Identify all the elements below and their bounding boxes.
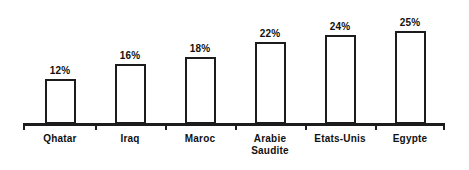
bar-chart: 12%16%18%22%24%25% QhatarIraqMarocArabie…: [0, 0, 469, 170]
category-label: Qhatar: [25, 133, 95, 145]
bar-group: 18%: [185, 41, 216, 124]
bar-group: 24%: [325, 19, 356, 124]
category-label-line: Saudite: [235, 145, 305, 157]
bar-value-label: 16%: [120, 50, 141, 61]
axis-tick: [23, 123, 25, 130]
category-label: Egypte: [375, 133, 445, 145]
category-label: ArabieSaudite: [235, 133, 305, 157]
bar: [255, 42, 286, 124]
category-label: Etats-Unis: [305, 133, 375, 145]
axis-tick: [443, 123, 445, 130]
bar-group: 16%: [115, 48, 146, 124]
bar: [185, 57, 216, 124]
category-label: Maroc: [165, 133, 235, 145]
axis-tick: [375, 123, 377, 130]
category-label-line: Iraq: [95, 133, 165, 145]
category-label-line: Egypte: [375, 133, 445, 145]
bar-value-label: 24%: [330, 21, 351, 32]
axis-tick: [95, 123, 97, 130]
x-axis-category-labels: QhatarIraqMarocArabieSauditeEtats-UnisEg…: [0, 133, 469, 170]
bar-group: 12%: [45, 63, 76, 124]
bar: [325, 35, 356, 124]
axis-tick: [165, 123, 167, 130]
category-label: Iraq: [95, 133, 165, 145]
category-label-line: Maroc: [165, 133, 235, 145]
axis-tick: [235, 123, 237, 130]
bar-value-label: 25%: [400, 17, 421, 28]
bar: [395, 31, 426, 124]
bar-value-label: 18%: [190, 43, 211, 54]
plot-area: 12%16%18%22%24%25%: [0, 0, 469, 124]
x-axis-line: [23, 123, 445, 126]
bar-value-label: 12%: [50, 65, 71, 76]
category-label-line: Arabie: [235, 133, 305, 145]
category-label-line: Qhatar: [25, 133, 95, 145]
bar: [45, 79, 76, 124]
bar-value-label: 22%: [260, 28, 281, 39]
bar-group: 25%: [395, 15, 426, 124]
category-label-line: Etats-Unis: [305, 133, 375, 145]
bar-group: 22%: [255, 26, 286, 124]
axis-tick: [305, 123, 307, 130]
bar: [115, 64, 146, 124]
